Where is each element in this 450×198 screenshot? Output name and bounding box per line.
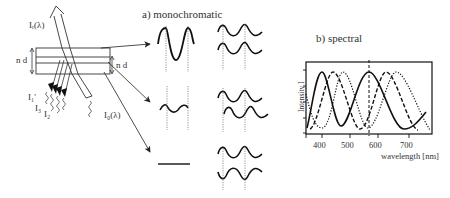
scattered-label-2: I₃	[35, 103, 41, 113]
spectral-chart	[303, 60, 432, 138]
slab-thickness-label-left: n d	[16, 55, 27, 65]
x-axis-label: wavelength [nm]	[381, 151, 439, 161]
y-axis-label: Intensity I	[297, 81, 306, 112]
x-tick-400: 400	[313, 140, 326, 150]
scattered-label-1: I₁'	[28, 92, 36, 102]
x-ticks	[306, 134, 409, 138]
component-waves	[218, 25, 268, 180]
scattered-label-3: I₂	[44, 109, 50, 119]
mono-result-2	[160, 105, 188, 112]
x-tick-500: 500	[341, 140, 354, 150]
panel-b-title: b) spectral	[316, 32, 362, 44]
mono-result-1	[158, 28, 194, 60]
x-tick-700: 700	[400, 140, 413, 150]
incident-squiggle	[89, 101, 92, 117]
reflected-intensity-label: Iᵣ(λ)	[29, 20, 44, 30]
diagram-canvas	[0, 0, 450, 198]
thickness-arrow-left	[30, 48, 34, 74]
thin-film-slab	[36, 48, 110, 74]
component-dashed-guides	[223, 24, 245, 190]
slab-thickness-label-right: n d	[116, 60, 127, 70]
beam-outline	[50, 6, 92, 98]
panel-a-title: a) monochromatic	[142, 8, 222, 20]
incident-intensity-label: I₀(λ)	[104, 110, 121, 120]
x-tick-600: 600	[369, 140, 382, 150]
